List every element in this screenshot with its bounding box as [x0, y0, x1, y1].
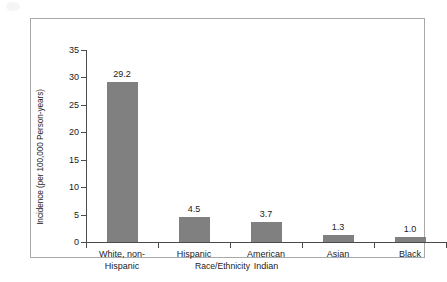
- y-tick-label: 10: [69, 183, 79, 192]
- plot-area: 05101520253035 29.24.53.71.31.0 White, n…: [86, 50, 446, 242]
- x-category-label: Hispanic: [158, 249, 230, 261]
- y-tick-label: 30: [69, 73, 79, 82]
- y-tick-label: 15: [69, 155, 79, 164]
- y-tick-mark: [81, 160, 86, 161]
- bar: 3.7: [251, 222, 282, 242]
- x-category-label: Asian: [302, 249, 374, 261]
- x-category-label-line: Hispanic: [158, 249, 230, 261]
- y-tick-label: 25: [69, 100, 79, 109]
- x-tick-mark: [230, 243, 231, 248]
- bar: 29.2: [107, 82, 138, 242]
- bar: 1.0: [395, 237, 426, 242]
- x-category-label-line: Black: [374, 249, 446, 261]
- bar: 4.5: [179, 217, 210, 242]
- x-axis-title: Race/Ethnicity: [0, 262, 445, 271]
- y-tick-mark: [81, 132, 86, 133]
- y-tick-mark: [81, 215, 86, 216]
- y-tick-mark: [81, 50, 86, 51]
- x-category-label-line: White, non-: [86, 249, 158, 261]
- bar-value-label: 1.3: [332, 223, 345, 232]
- x-category-label-line: Asian: [302, 249, 374, 261]
- bar: 1.3: [323, 235, 354, 242]
- x-axis-line: [86, 242, 447, 243]
- x-tick-mark: [302, 243, 303, 248]
- bar-value-label: 4.5: [188, 205, 201, 214]
- scan-artifact: [6, 2, 20, 11]
- y-tick-mark: [81, 187, 86, 188]
- x-tick-mark: [374, 243, 375, 248]
- chart-figure-frame: Incidence (per 100,000 Person-years) 051…: [30, 18, 425, 258]
- y-axis-title: Incidence (per 100,000 Person-years): [31, 37, 49, 277]
- x-tick-mark: [158, 243, 159, 248]
- x-tick-mark: [86, 243, 87, 248]
- x-category-label-line: American: [230, 249, 302, 261]
- y-tick-mark: [81, 77, 86, 78]
- bar-value-label: 3.7: [260, 210, 273, 219]
- y-tick-label: 20: [69, 128, 79, 137]
- y-tick-label: 5: [74, 210, 79, 219]
- y-tick-label: 35: [69, 46, 79, 55]
- bar-value-label: 1.0: [404, 225, 417, 234]
- x-category-label: Black: [374, 249, 446, 261]
- y-axis-line: [86, 50, 87, 243]
- y-tick-label: 0: [74, 238, 79, 247]
- bar-value-label: 29.2: [113, 70, 131, 79]
- y-tick-mark: [81, 105, 86, 106]
